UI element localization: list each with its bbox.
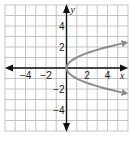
x-axis-label: x	[119, 70, 125, 81]
y-tick-label: −2	[53, 84, 65, 95]
x-tick-label: 2	[84, 70, 90, 81]
y-axis-label: y	[70, 4, 76, 15]
x-tick-label: −2	[40, 70, 52, 81]
x-tick-label: −4	[20, 70, 32, 81]
curve-arrow-icon	[121, 89, 129, 96]
curve-lower-branch	[67, 68, 121, 92]
y-tick-label: −4	[53, 105, 65, 116]
y-tick-label: 4	[59, 21, 65, 32]
x-tick-label: 4	[105, 70, 111, 81]
curve-upper-branch	[67, 44, 121, 68]
x-axis-left-arrow-icon	[5, 65, 13, 72]
y-tick-label: 2	[59, 42, 65, 53]
coordinate-plane: −4−22442−2−4 x y	[0, 0, 129, 146]
curve-arrow-icon	[121, 40, 129, 47]
